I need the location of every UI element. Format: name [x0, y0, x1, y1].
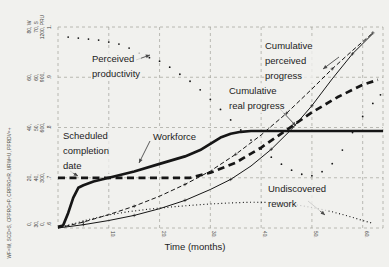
curve-perceived-productivity-dot — [372, 102, 374, 104]
perceived-productivity-label: Perceivedproductivity — [91, 51, 141, 81]
curve-perceived-productivity-dot — [77, 37, 79, 39]
scheduled-completion-date-label: Scheduledcompletiondate — [62, 128, 110, 173]
y-scale-label: 30, — [33, 221, 39, 228]
curve-perceived-productivity-dot — [199, 89, 201, 91]
y-scale-label: 0, — [39, 222, 45, 226]
dynamo-simulation-chart: 80, W60,40,20,0,70, S60,50,40,30,1200, P… — [0, 0, 389, 267]
y-scale-label: 1. — [46, 25, 52, 29]
curve-perceived-productivity-dot — [149, 57, 151, 59]
y-scale-label: 20, — [26, 174, 32, 181]
y-scale-label: .6 — [46, 222, 52, 226]
workforce-label: Workforce — [152, 129, 197, 144]
curve-perceived-productivity-dot — [321, 171, 323, 173]
x-tick-label: 30. — [211, 231, 216, 238]
y-scale-label: 900, — [39, 72, 45, 82]
x-tick-label: 10. — [110, 231, 115, 238]
plot-symbol-legend: WF=W, SCD=S, CPPRG=P, CRPRG=R, URW=U, PP… — [7, 127, 12, 258]
y-scale-label: 80, W — [26, 20, 32, 33]
y-scale-label: 60, — [33, 74, 39, 81]
curve-perceived-productivity-dot — [260, 148, 262, 150]
y-scale-label: 40, — [26, 124, 32, 131]
curve-perceived-productivity-dot — [118, 43, 120, 45]
curve-perceived-productivity-dot — [98, 39, 100, 41]
curve-perceived-productivity-dot — [331, 163, 333, 165]
curve-perceived-productivity-dot — [291, 169, 293, 171]
x-tick-label: 60. — [364, 231, 369, 238]
x-axis-title: Time (months) — [110, 241, 280, 252]
curve-perceived-productivity-dot — [281, 163, 283, 165]
x-tick-label: 40. — [262, 231, 267, 238]
curve-perceived-productivity-dot — [270, 156, 272, 158]
curve-perceived-productivity-dot — [352, 132, 354, 134]
curve-perceived-productivity-dot — [301, 173, 303, 175]
curve-perceived-productivity-dot — [128, 47, 130, 49]
curve-perceived-productivity-dot — [108, 41, 110, 43]
curve-perceived-productivity-dot — [189, 80, 191, 82]
curve-perceived-productivity-dot — [67, 36, 69, 38]
curve-perceived-productivity-dot — [159, 60, 161, 62]
y-scale-label: 300, — [39, 173, 45, 183]
cumulative-real-progress-label: Cumulativereal progress — [228, 83, 285, 113]
y-scale-label: 60, — [26, 74, 32, 81]
x-tick-label: 50. — [313, 231, 318, 238]
curve-perceived-productivity-dot — [230, 119, 232, 121]
curve-perceived-productivity-dot — [209, 98, 211, 100]
y-scale-label: .8 — [46, 125, 52, 129]
curve-perceived-productivity-dot — [179, 73, 181, 75]
x-tick-label: 20. — [161, 231, 166, 238]
y-scale-label: .7 — [46, 175, 52, 179]
curve-perceived-productivity-dot — [380, 94, 382, 96]
y-scale-label: 50, — [33, 124, 39, 131]
curve-perceived-productivity-dot — [250, 139, 252, 141]
y-scale-label: .9 — [46, 75, 52, 79]
curve-perceived-productivity-dot — [362, 116, 364, 118]
curve-perceived-productivity-dot — [240, 129, 242, 131]
y-scale-label: 1200, PRU — [39, 14, 45, 39]
curve-perceived-productivity-dot — [220, 109, 222, 111]
curve-perceived-productivity-dot — [311, 175, 313, 177]
curve-perceived-productivity-dot — [341, 149, 343, 151]
cumulative-perceived-progress-label: Cumulativeperceivedprogress — [264, 38, 314, 83]
curve-perceived-productivity-dot — [88, 38, 90, 40]
undiscovered-rework-label: Undiscoveredrework — [267, 181, 327, 211]
y-scale-label: 0, — [26, 222, 32, 226]
y-scale-label: 40, — [33, 174, 39, 181]
curve-perceived-productivity-dot — [169, 66, 171, 68]
y-scale-label: 70, S — [33, 21, 39, 33]
cumulative-perceived-progress-arrowhead — [323, 65, 328, 69]
y-scale-label: 600, — [39, 123, 45, 133]
